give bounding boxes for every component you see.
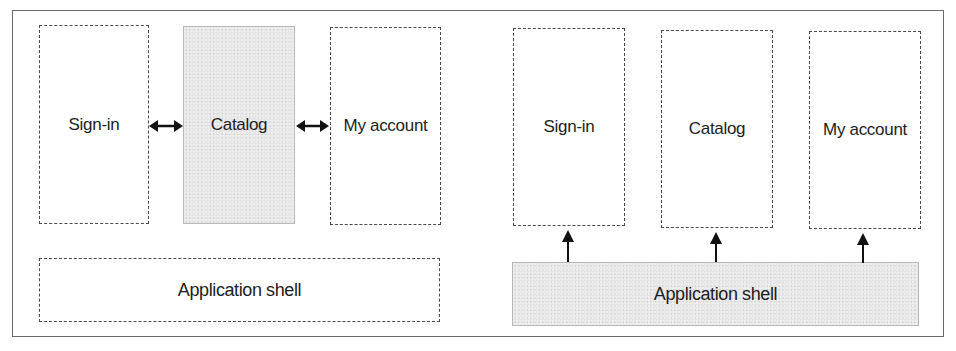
left-myaccount-label: My account [344, 116, 428, 136]
right-signin-label: Sign-in [544, 117, 595, 137]
right-catalog-module: Catalog [661, 30, 773, 228]
right-application-shell: Application shell [512, 262, 919, 326]
left-myaccount-module: My account [330, 27, 441, 225]
right-myaccount-label: My account [823, 120, 907, 140]
right-shell-label: Application shell [654, 284, 777, 305]
right-myaccount-module: My account [809, 31, 921, 229]
left-application-shell: Application shell [39, 258, 440, 322]
right-catalog-label: Catalog [689, 119, 746, 139]
right-signin-module: Sign-in [513, 28, 625, 226]
left-catalog-label: Catalog [211, 115, 268, 135]
left-shell-label: Application shell [178, 280, 301, 301]
left-signin-module: Sign-in [39, 25, 149, 224]
left-signin-label: Sign-in [69, 115, 120, 135]
left-catalog-module: Catalog [183, 26, 295, 224]
